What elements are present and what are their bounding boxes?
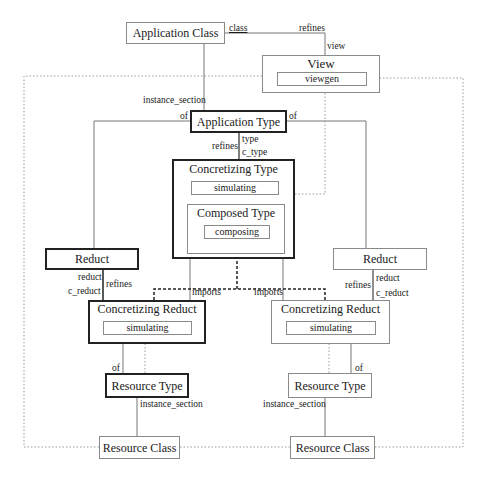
resource-class-right-box: Resource Class bbox=[290, 436, 375, 459]
edge-label-instance-section-right: instance_section bbox=[263, 399, 326, 410]
composing-label: composing bbox=[215, 226, 259, 237]
edge-label-c-reduct-right: c_reduct bbox=[376, 288, 409, 299]
edge-label-refines-mid: refines bbox=[212, 141, 238, 152]
edge-label-c-reduct-left: c_reduct bbox=[68, 286, 101, 297]
concretizing-reduct-left-box: Concretizing Reduct simulating bbox=[88, 300, 206, 344]
edge-label-of-bottom-right: of bbox=[355, 363, 363, 374]
edge-label-class: class bbox=[229, 23, 247, 34]
simulating-right-box: simulating bbox=[286, 321, 376, 335]
resource-type-left-label: Resource Type bbox=[107, 379, 187, 394]
simulating-box: simulating bbox=[191, 181, 279, 195]
resource-type-right-label: Resource Type bbox=[289, 379, 371, 394]
concretizing-type-label: Concretizing Type bbox=[174, 162, 293, 177]
edge-label-reduct-right: reduct bbox=[376, 273, 400, 284]
composing-box: composing bbox=[204, 225, 270, 239]
edge-label-imports-left: imports bbox=[192, 287, 221, 298]
edge-label-type: type bbox=[242, 134, 258, 145]
concretizing-type-box: Concretizing Type simulating Composed Ty… bbox=[172, 159, 295, 259]
edge-label-of-bottom-left: of bbox=[112, 363, 120, 374]
composed-type-box: Composed Type composing bbox=[187, 204, 285, 254]
application-type-box: Application Type bbox=[190, 110, 287, 133]
application-class-box: Application Class bbox=[126, 22, 225, 44]
resource-type-right-box: Resource Type bbox=[288, 373, 372, 398]
concretizing-reduct-right-label: Concretizing Reduct bbox=[272, 302, 389, 317]
reduct-right-box: Reduct bbox=[333, 248, 427, 270]
edge-label-reduct-left: reduct bbox=[78, 272, 102, 283]
edge-label-of-left: of bbox=[180, 111, 188, 122]
simulating-left-label: simulating bbox=[126, 322, 168, 333]
edge-label-imports-right: imports bbox=[254, 287, 283, 298]
reduct-left-label: Reduct bbox=[47, 252, 137, 267]
composed-type-label: Composed Type bbox=[188, 206, 284, 221]
concretizing-reduct-right-box: Concretizing Reduct simulating bbox=[271, 300, 390, 344]
reduct-left-box: Reduct bbox=[45, 248, 139, 270]
view-label: View bbox=[263, 56, 379, 72]
simulating-label: simulating bbox=[214, 182, 256, 193]
edge-label-of-right: of bbox=[289, 111, 297, 122]
simulating-right-label: simulating bbox=[310, 322, 352, 333]
viewgen-box: viewgen bbox=[277, 72, 367, 86]
edge-label-instance-section-top: instance_section bbox=[143, 95, 206, 106]
viewgen-label: viewgen bbox=[305, 73, 339, 84]
edge-label-refines-top: refines bbox=[299, 23, 325, 34]
resource-type-left-box: Resource Type bbox=[105, 373, 189, 398]
resource-class-left-box: Resource Class bbox=[99, 436, 180, 459]
edge-label-c-type: c_type bbox=[242, 147, 267, 158]
resource-class-left-label: Resource Class bbox=[100, 441, 179, 456]
application-class-label: Application Class bbox=[127, 26, 224, 41]
concretizing-reduct-left-label: Concretizing Reduct bbox=[90, 302, 204, 317]
simulating-left-box: simulating bbox=[103, 321, 192, 335]
application-type-label: Application Type bbox=[192, 115, 285, 130]
view-box: View viewgen bbox=[262, 55, 380, 93]
resource-class-right-label: Resource Class bbox=[291, 441, 374, 456]
edge-label-view: view bbox=[327, 41, 345, 52]
edge-label-refines-right: refines bbox=[345, 280, 371, 291]
edge-label-instance-section-left: instance_section bbox=[140, 399, 203, 410]
reduct-right-label: Reduct bbox=[334, 252, 426, 267]
edge-label-refines-left: refines bbox=[106, 279, 132, 290]
